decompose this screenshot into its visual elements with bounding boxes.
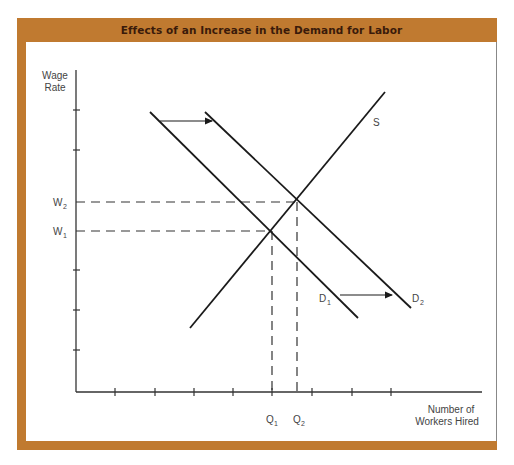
svg-text:2: 2 [63, 203, 67, 210]
x-axis-title-line1: Number of [428, 404, 475, 415]
svg-text:1: 1 [327, 299, 331, 306]
q2-label: Q 2 [293, 414, 305, 427]
svg-text:W: W [53, 226, 63, 237]
curves [150, 92, 411, 328]
supply-label: S [373, 117, 380, 128]
shift-arrows [160, 121, 392, 295]
svg-text:Q: Q [266, 414, 274, 425]
y-axis-title-line2: Rate [44, 82, 66, 93]
w2-label: W 2 [53, 197, 67, 210]
chart-svg: Wage Rate Number of Workers Hired W 2 W … [0, 0, 514, 465]
svg-text:W: W [53, 197, 63, 208]
svg-text:1: 1 [274, 420, 278, 427]
svg-text:D: D [412, 293, 419, 304]
d1-label: D 1 [319, 293, 331, 306]
w1-label: W 1 [53, 226, 67, 239]
svg-text:2: 2 [301, 420, 305, 427]
svg-text:D: D [319, 293, 326, 304]
supply-curve [190, 92, 385, 328]
q1-label: Q 1 [266, 414, 278, 427]
equilibrium-guides [76, 202, 297, 392]
svg-text:Q: Q [293, 414, 301, 425]
d2-label: D 2 [412, 293, 424, 306]
demand-curve-d1 [150, 112, 358, 318]
svg-text:2: 2 [420, 299, 424, 306]
svg-text:1: 1 [63, 232, 67, 239]
y-axis-title-line1: Wage [42, 70, 68, 81]
x-axis-title-line2: Workers Hired [415, 416, 479, 427]
demand-curve-d2 [205, 112, 411, 308]
